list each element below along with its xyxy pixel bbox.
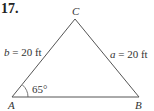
vertex-a-label: A (8, 100, 15, 111)
side-a-variable: a (110, 48, 116, 60)
angle-a-label: 65° (32, 84, 47, 95)
side-b-variable: b (4, 46, 10, 58)
angle-a-arc (23, 85, 29, 97)
side-b-value: = 20 ft (12, 46, 41, 58)
vertex-c-label: C (72, 6, 79, 17)
side-a-value: = 20 ft (118, 48, 147, 60)
problem-number: 17. (1, 2, 19, 16)
side-a-label: a = 20 ft (110, 49, 148, 60)
triangle-figure: 17. C A B b = 20 ft a = 20 ft 65° (0, 0, 154, 111)
vertex-b-label: B (135, 100, 142, 111)
side-b-label: b = 20 ft (4, 47, 42, 58)
